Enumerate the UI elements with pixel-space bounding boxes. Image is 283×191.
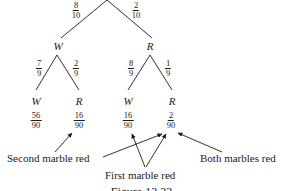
branch-root-r [107,0,152,38]
node-r: R [147,41,154,52]
outcome-wr: 16 90 [74,111,85,130]
leaf-node-rr: R [169,96,176,107]
leaf-node-ww: W [31,96,40,107]
label-both-marbles-red: Both marbles red [200,152,276,164]
leaf-node-wr: R [76,96,83,107]
arrow-second-to-rr [103,134,162,157]
prob-root-w: 8 10 [71,1,82,20]
probability-tree-diagram: 8 10 2 10 W R 7 9 2 9 8 9 1 9 W R W R 56… [0,0,283,191]
prob-r-r: 1 9 [165,59,171,78]
label-first-marble-red: First marble red [105,169,175,181]
branch-root-w [61,0,107,38]
prob-r-w: 8 9 [128,59,134,78]
arrow-both-to-rr [178,133,222,152]
prob-w-r: 2 9 [73,59,79,78]
label-second-marble-red: Second marble red [7,152,89,164]
node-w: W [53,41,62,52]
prob-w-w: 7 9 [36,59,42,78]
leaf-node-rw: W [123,96,132,107]
arrow-second-to-wr [55,133,72,152]
figure-caption: Figure 13.33 [0,186,283,191]
outcome-rr: 2 90 [166,111,177,130]
arrow-first-to-rw [132,134,145,167]
outcome-rw: 16 90 [123,111,134,130]
outcome-ww: 56 90 [31,111,42,130]
prob-root-r: 2 10 [131,1,142,20]
